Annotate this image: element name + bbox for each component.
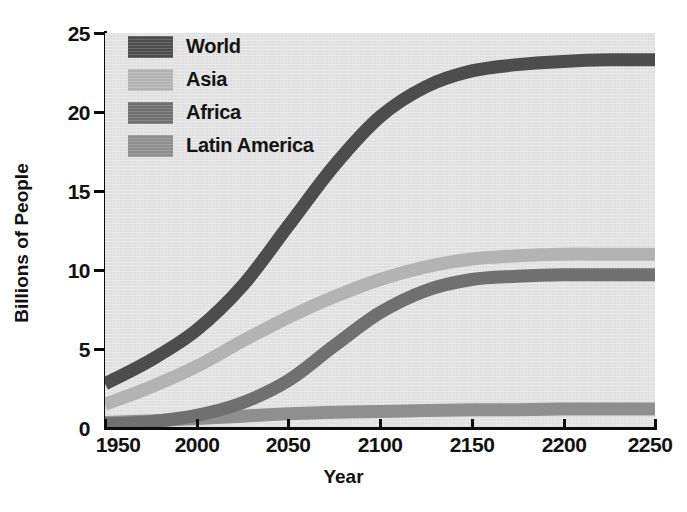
- x-tick-label-2250: 2250: [628, 434, 673, 455]
- legend-label-world: World: [186, 35, 241, 58]
- legend-swatch-asia: [128, 69, 173, 91]
- legend-item-world[interactable]: World: [128, 30, 314, 63]
- legend-swatch-world: [128, 36, 173, 58]
- x-tick-label-2000: 2000: [175, 434, 220, 455]
- x-axis-tick-2200: [563, 419, 566, 430]
- legend-label-asia: Asia: [186, 68, 227, 91]
- x-tick-label-2050: 2050: [266, 434, 311, 455]
- y-axis-title: Billions of People: [11, 128, 33, 358]
- x-tick-label-2100: 2100: [358, 434, 403, 455]
- x-axis-title: Year: [0, 466, 687, 488]
- chart-legend: World Asia Africa Latin America: [128, 30, 314, 162]
- legend-label-latin-america: Latin America: [186, 134, 314, 157]
- y-axis-tick-15: [94, 190, 105, 193]
- x-axis-tick-2250: [654, 419, 657, 430]
- y-axis-tick-5: [94, 348, 105, 351]
- y-tick-label-10: 10: [30, 260, 90, 281]
- x-tick-label-2200: 2200: [542, 434, 587, 455]
- y-tick-label-20: 20: [30, 102, 90, 123]
- legend-item-latin-america[interactable]: Latin America: [128, 129, 314, 162]
- legend-swatch-latin-america: [128, 135, 173, 157]
- legend-item-africa[interactable]: Africa: [128, 96, 314, 129]
- y-axis-tick-25: [94, 32, 105, 35]
- x-tick-label-1950: 1950: [96, 434, 141, 455]
- y-axis-tick-10: [94, 269, 105, 272]
- x-axis-tick-1950: [104, 419, 107, 430]
- x-axis-tick-2050: [287, 419, 290, 430]
- y-tick-label-15: 15: [30, 181, 90, 202]
- series-line-africa: [105, 275, 655, 424]
- y-tick-label-5: 5: [30, 339, 90, 360]
- y-tick-label-25: 25: [30, 23, 90, 44]
- legend-swatch-africa: [128, 102, 173, 124]
- y-axis-tick-20: [94, 111, 105, 114]
- x-axis-tick-2000: [196, 419, 199, 430]
- y-tick-label-0: 0: [30, 418, 90, 439]
- legend-label-africa: Africa: [186, 101, 241, 124]
- population-projection-chart: 25 20 15 10 5 0 1950 2000 2050 2100 2150…: [0, 0, 687, 512]
- x-axis-tick-2150: [471, 419, 474, 430]
- legend-item-asia[interactable]: Asia: [128, 63, 314, 96]
- x-tick-label-2150: 2150: [450, 434, 495, 455]
- x-axis-tick-2100: [379, 419, 382, 430]
